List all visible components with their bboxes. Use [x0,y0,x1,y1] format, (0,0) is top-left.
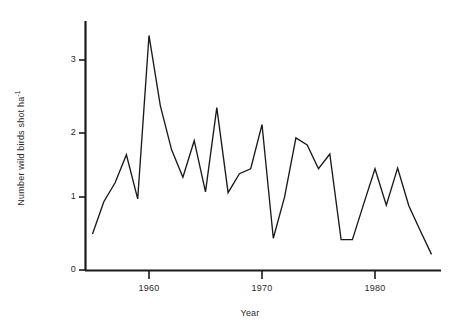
y-axis-title-text: Number wild birds shot ha [16,97,26,206]
y-tick-label-2: 2 [56,127,76,137]
y-axis-title: Number wild birds shot ha-1 [16,53,26,243]
x-tick-label-1970: 1970 [242,283,282,293]
y-tick-label-3: 3 [56,54,76,64]
y-axis-title-exponent: -1 [14,90,21,96]
data-series-line [93,35,432,254]
x-tick-label-1980: 1980 [355,283,395,293]
x-tick-label-1960: 1960 [129,283,169,293]
x-axis-title: Year [230,308,270,318]
y-tick-label-0: 0 [56,264,76,274]
chart-figure: 3 2 1 0 1960 1970 1980 Year Number wild … [0,0,455,332]
y-tick-label-1: 1 [56,191,76,201]
